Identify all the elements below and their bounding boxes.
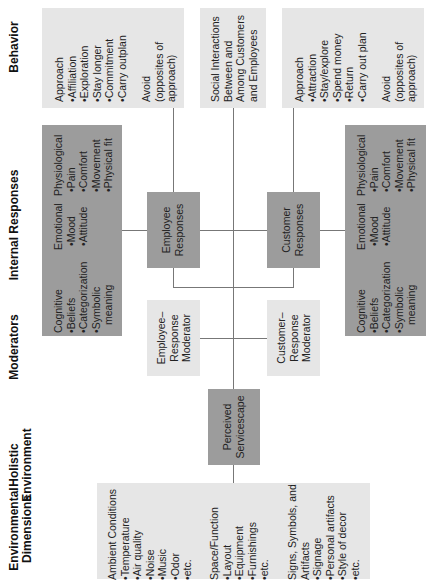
avoid-label: Avoid (380, 32, 393, 102)
dimension-item: Odor (169, 489, 182, 580)
employee-cognitive-text: Cognitive Beliefs Categorization Symboli… (52, 262, 115, 333)
dimension-item: Air quality (131, 489, 144, 580)
dimension-item: Signage (311, 484, 324, 580)
box-label: Servicescape (234, 394, 247, 460)
avoid-label: approach) (165, 35, 178, 102)
dimension-item: Personal artifacts (324, 484, 337, 580)
box-label: Response (168, 306, 181, 370)
category-item: Symbolic (90, 262, 103, 333)
customer-physiological-text: Physiological Pain Comfort Movement Phys… (355, 135, 418, 196)
category-item: Pain (368, 135, 381, 196)
category-title: Cognitive (355, 262, 368, 333)
box-label: Response (288, 306, 301, 370)
employee-responses-text: Employee Responses (160, 198, 185, 262)
category-item: Physical fit (102, 135, 115, 196)
dimension-item: etc. (258, 507, 271, 580)
behavior-item: Return (343, 32, 356, 102)
ambient-conditions-text: Ambient Conditions Temperature Air quali… (106, 489, 194, 580)
behavior-item: Carry outplan (116, 35, 129, 102)
category-title: Physiological (355, 135, 368, 196)
category-item: Categorization (77, 262, 90, 333)
connector-line (233, 465, 234, 483)
header-text: Moderators (8, 302, 21, 392)
dimension-item: Music (156, 489, 169, 580)
column-header-moderators: Moderators (8, 302, 21, 392)
avoid-label: (opposites of (393, 32, 406, 102)
perceived-servicescape-text: Perceived Servicescape (221, 394, 246, 460)
category-item: Comfort (77, 135, 90, 196)
box-label: Perceived (221, 394, 234, 460)
category-item: Physical fit (405, 135, 418, 196)
connector-line (173, 108, 174, 192)
dimension-title: Signs, Symbols, and (286, 484, 299, 580)
column-header-environmental-dimensions: Environmental Dimensions (8, 474, 34, 584)
dimension-title: Artifacts (299, 484, 312, 580)
behavior-item: Attraction (306, 32, 319, 102)
connector-line (320, 230, 345, 231)
dimension-item: Layout (221, 507, 234, 580)
dimension-item: Furnishings (246, 507, 259, 580)
dimension-item: Noise (144, 489, 157, 580)
category-item: Symbolic (393, 262, 406, 333)
box-label: Customer (280, 198, 293, 262)
box-label: Employee (160, 198, 173, 262)
signs-symbols-artifacts-text: Signs, Symbols, and Artifacts Signage Pe… (286, 484, 361, 580)
category-item: Beliefs (65, 262, 78, 333)
header-text: Dimensions (21, 474, 34, 584)
category-item: meaning (102, 262, 115, 333)
social-line: Social Interactions (209, 15, 222, 102)
behavior-item: Affiliation (66, 35, 79, 102)
category-item: meaning (405, 262, 418, 333)
connector-line (293, 108, 294, 192)
employee-physiological-text: Physiological Pain Comfort Movement Phys… (52, 135, 115, 196)
avoid-label: Avoid (140, 35, 153, 102)
behavior-item: Spend money (331, 32, 344, 102)
customer-response-moderator-text: Customer– Response Moderator (275, 306, 313, 370)
header-text: Behavior (8, 2, 21, 92)
behavior-item: Carry out plan (356, 32, 369, 102)
category-item: Movement (393, 135, 406, 196)
customer-behavior-text: Approach Attraction Stay/explore Spend m… (293, 32, 418, 102)
category-item: Attitude (77, 203, 90, 250)
column-header-behavior: Behavior (8, 2, 21, 92)
customer-responses-text: Customer Responses (280, 198, 305, 262)
dimension-item: Temperature (119, 489, 132, 580)
dimension-item: Equipment (233, 507, 246, 580)
header-text: Internal Responses (8, 160, 21, 290)
behavior-item: Stay/explore (318, 32, 331, 102)
category-item: Mood (65, 203, 78, 250)
category-item: Categorization (380, 262, 393, 333)
category-item: Comfort (380, 135, 393, 196)
behavior-item: Commitment (103, 35, 116, 102)
behavior-item: Exploration (78, 35, 91, 102)
social-line: Between and (222, 15, 235, 102)
category-item: Attitude (380, 203, 393, 250)
connector-line (233, 108, 234, 389)
customer-emotional-text: Emotional Mood Attitude (355, 203, 393, 250)
connector-line (200, 338, 267, 339)
social-interactions-text: Social Interactions Between and Among Cu… (209, 15, 259, 102)
box-label: Employee– (155, 306, 168, 370)
category-title: Cognitive (52, 262, 65, 333)
box-label: Moderator (300, 306, 313, 370)
dimension-title: Space/Function (208, 507, 221, 580)
category-item: Beliefs (368, 262, 381, 333)
connector-line (200, 230, 267, 231)
approach-label: Approach (53, 35, 66, 102)
avoid-label: approach) (405, 32, 418, 102)
dimension-item: etc. (181, 489, 194, 580)
category-title: Physiological (52, 135, 65, 196)
connector-line (173, 268, 174, 288)
connector-line (122, 230, 147, 231)
space-function-text: Space/Function Layout Equipment Furnishi… (208, 507, 271, 580)
category-title: Emotional (355, 203, 368, 250)
category-item: Movement (90, 135, 103, 196)
employee-behavior-text: Approach Affiliation Exploration Stay lo… (53, 35, 178, 102)
avoid-label: (opposites of (153, 35, 166, 102)
box-label: Responses (173, 198, 186, 262)
box-label: Moderator (180, 306, 193, 370)
connector-line (293, 268, 294, 288)
box-label: Customer– (275, 306, 288, 370)
category-item: Mood (368, 203, 381, 250)
dimension-title: Ambient Conditions (106, 489, 119, 580)
